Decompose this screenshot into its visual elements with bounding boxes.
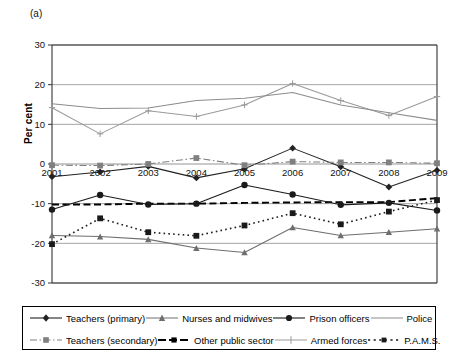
data-point	[289, 80, 295, 86]
legend-swatch-teachers-primary	[29, 312, 63, 324]
legend-label-teachers-secondary: Teachers (secondary)	[66, 335, 157, 346]
data-point	[145, 229, 151, 235]
data-point	[290, 159, 296, 165]
y-tick-label--20: -20	[31, 238, 45, 249]
legend-label-police: Police	[407, 313, 433, 324]
legend-swatch-other-public-sector	[157, 334, 191, 346]
y-tick-label-30: 30	[34, 39, 45, 50]
series-nurses-and-midwives	[49, 224, 440, 255]
legend-item-police[interactable]: Police	[370, 312, 433, 324]
data-point	[434, 160, 440, 166]
data-point	[289, 224, 295, 230]
y-tick-label--30: -30	[31, 277, 45, 288]
data-point	[386, 160, 392, 166]
legend-row-1: Teachers (primary) Nurses and midwives P…	[23, 307, 435, 329]
data-point	[241, 102, 247, 108]
line-chart: 3020100-10-20-30200120022003200420052006…	[0, 0, 459, 300]
data-point	[97, 215, 103, 221]
legend-item-nurses-and-midwives[interactable]: Nurses and midwives	[145, 312, 272, 324]
chart-plot-area: 3020100-10-20-30200120022003200420052006…	[0, 0, 459, 300]
data-point	[386, 200, 392, 206]
legend-item-teachers-primary[interactable]: Teachers (primary)	[29, 312, 145, 324]
y-tick-label-10: 10	[34, 119, 45, 130]
data-point	[434, 93, 440, 99]
legend-swatch-teachers-secondary	[29, 334, 63, 346]
legend-item-prison-officers[interactable]: Prison officers	[272, 312, 369, 324]
data-point	[145, 201, 151, 207]
data-point	[193, 233, 199, 239]
legend-label-other-public-sector: Other public sector	[194, 335, 274, 346]
legend-row-2: Teachers (secondary) Other public sector…	[23, 329, 435, 351]
legend-swatch-police	[370, 312, 404, 324]
data-point	[289, 145, 296, 152]
data-point	[338, 97, 344, 103]
data-point	[241, 182, 247, 188]
x-tick-label-2008: 2008	[378, 167, 399, 178]
data-point	[386, 209, 392, 215]
legend-label-teachers-primary: Teachers (primary)	[66, 313, 145, 324]
data-point	[193, 113, 199, 119]
y-tick-label-20: 20	[34, 79, 45, 90]
data-point	[49, 206, 55, 212]
data-point	[242, 162, 248, 168]
series-line	[52, 227, 437, 252]
data-point	[97, 131, 103, 137]
data-point	[97, 192, 103, 198]
legend-swatch-armed-forces	[274, 334, 308, 346]
data-point	[193, 200, 199, 206]
legend-item-other-public-sector[interactable]: Other public sector	[157, 334, 274, 346]
data-point	[145, 161, 151, 167]
data-point	[290, 210, 296, 216]
series-prison-officers	[49, 182, 440, 214]
data-point	[338, 160, 344, 166]
data-point	[49, 162, 55, 168]
data-point	[338, 202, 344, 208]
legend-label-pams: P.A.M.S.	[404, 335, 440, 346]
data-point	[434, 197, 440, 203]
legend-label-prison-officers: Prison officers	[309, 313, 369, 324]
figure-panel: (a) Per cent 3020100-10-20-3020012002200…	[0, 0, 459, 355]
legend-swatch-nurses-and-midwives	[145, 312, 179, 324]
series-line	[52, 185, 437, 210]
data-point	[242, 223, 248, 229]
data-point	[434, 207, 440, 213]
legend-label-nurses-and-midwives: Nurses and midwives	[182, 313, 272, 324]
legend-item-pams[interactable]: P.A.M.S.	[367, 334, 440, 346]
data-point	[193, 155, 199, 161]
x-tick-label-2006: 2006	[282, 167, 303, 178]
data-point	[49, 241, 55, 247]
data-point	[289, 191, 295, 197]
y-tick-label--10: -10	[31, 198, 45, 209]
legend-item-teachers-secondary[interactable]: Teachers (secondary)	[29, 334, 157, 346]
data-point	[338, 221, 344, 227]
legend-swatch-pams	[367, 334, 401, 346]
legend-item-armed-forces[interactable]: Armed forces	[274, 334, 368, 346]
data-point	[385, 184, 392, 191]
legend-swatch-prison-officers	[272, 312, 306, 324]
data-point	[97, 163, 103, 169]
data-point	[49, 104, 55, 110]
legend-label-armed-forces: Armed forces	[311, 335, 368, 346]
chart-legend: Teachers (primary) Nurses and midwives P…	[22, 306, 436, 350]
